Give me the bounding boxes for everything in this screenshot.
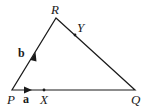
point-y-marker: [74, 34, 77, 37]
triangle-diagram: R Y P X Q a b: [0, 0, 147, 111]
label-q: Q: [131, 92, 141, 107]
point-x-marker: [43, 89, 46, 92]
label-r: R: [50, 2, 59, 17]
label-vector-b: b: [18, 46, 25, 60]
arrow-b-icon: [31, 52, 37, 62]
label-x: X: [39, 92, 49, 107]
label-p: P: [6, 92, 15, 107]
triangle-pqr: [12, 18, 135, 90]
label-y: Y: [77, 20, 86, 35]
label-vector-a: a: [23, 92, 29, 106]
